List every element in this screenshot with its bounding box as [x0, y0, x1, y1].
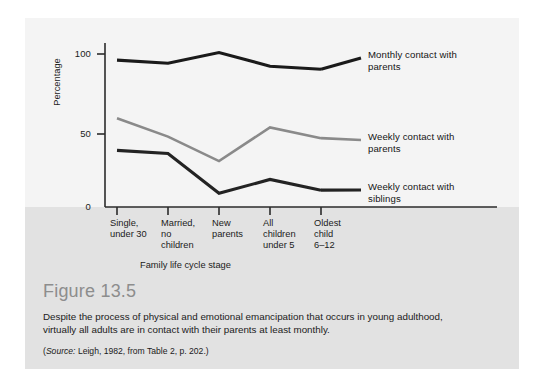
y-axis-title: Percentage	[52, 42, 62, 122]
x-axis-title: Family life cycle stage	[140, 260, 231, 270]
x-axis-category-label-4: All children under 5	[263, 218, 315, 252]
x-axis-category-label-5: Oldest child 6–12	[314, 218, 366, 252]
series-line-monthly-contact-parents	[117, 52, 321, 69]
y-axis-tick-label-0: 0	[63, 201, 91, 212]
source-rest: Leigh, 1982, from Table 2, p. 202.)	[76, 346, 209, 356]
figure-number-heading: Figure 13.5	[43, 281, 493, 302]
y-axis-tick-label-100: 100	[63, 48, 91, 59]
series-leader-line-1	[321, 138, 361, 140]
figure-source-line: (Source: Leigh, 1982, from Table 2, p. 2…	[43, 346, 493, 357]
figure-panel: 100 50 0 Percentage Single, under 30 Mar…	[25, 18, 519, 369]
series-label-weekly-contact-siblings: Weekly contact with siblings	[368, 181, 508, 204]
y-axis-tick-label-50: 50	[63, 128, 91, 139]
figure-caption-text: Despite the process of physical and emot…	[43, 310, 463, 337]
x-axis-category-label-3: New parents	[212, 218, 264, 240]
series-label-monthly-contact-parents: Monthly contact with parents	[368, 49, 508, 72]
x-axis-category-label-1: Single, under 30	[110, 218, 162, 240]
series-line-weekly-contact-siblings	[117, 150, 321, 193]
series-leader-line-0	[321, 58, 361, 69]
series-line-weekly-contact-parents	[117, 118, 321, 161]
x-axis-category-label-2: Married, no children	[161, 218, 213, 252]
source-word: Source:	[46, 346, 76, 356]
chart-area: 100 50 0 Percentage Single, under 30 Mar…	[25, 18, 519, 283]
caption-block: Figure 13.5 Despite the process of physi…	[43, 281, 493, 357]
series-label-weekly-contact-parents: Weekly contact with parents	[368, 131, 508, 154]
